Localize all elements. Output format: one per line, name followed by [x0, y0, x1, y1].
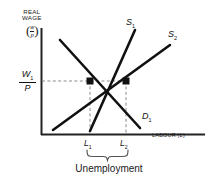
x-tick-label-l2: L2	[120, 139, 128, 150]
curve-label-s2: S2	[168, 30, 177, 41]
paren-close: )	[34, 23, 38, 38]
supply-curve-s2	[53, 45, 170, 130]
wage-numerator-sub: 1	[30, 75, 33, 81]
figure-caption: Unemployment	[0, 164, 218, 174]
x-axis-title: LABOUR (L)	[152, 133, 185, 139]
y-axis-title-line2: WAGE	[22, 15, 41, 21]
y-axis-unit: (wp)	[26, 24, 39, 38]
equilibrium-marker	[87, 78, 94, 85]
y-axis-title: REAL WAGE	[22, 9, 41, 21]
curve-label-d1: D1	[142, 112, 152, 123]
curve-label-s1: S1	[126, 18, 135, 29]
curve-label-s2-sub: 2	[174, 35, 177, 41]
figure-canvas: REAL WAGE (wp) W1 P S1 S2 D1 L1 L2 LABOU…	[0, 0, 218, 182]
wage-numerator-base: W	[22, 69, 31, 79]
x-tick-l2-sub: 2	[125, 144, 128, 150]
wage-denominator: P	[17, 84, 38, 93]
x-axis-title-text: LABOUR (	[152, 132, 180, 138]
wage-level-label: W1 P	[17, 70, 38, 93]
curve-label-s1-sub: 1	[132, 23, 135, 29]
x-tick-l1-sub: 1	[89, 144, 92, 150]
unemployment-brace	[87, 150, 128, 161]
curve-label-d1-sub: 1	[149, 117, 152, 123]
x-axis-title-close: )	[183, 132, 185, 138]
s2-point-marker	[123, 78, 130, 85]
x-tick-label-l1: L1	[84, 139, 92, 150]
wage-numerator: W1	[17, 70, 38, 81]
